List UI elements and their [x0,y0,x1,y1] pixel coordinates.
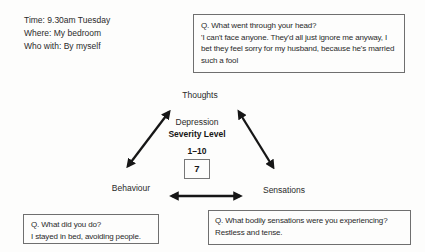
sensations-question: Q. What bodily sensations were you exper… [215,215,404,227]
behaviour-answer: I stayed in bed, avoiding people. [31,231,151,243]
depression-label: Depression [147,116,247,128]
severity-level-label: Severity Level [147,128,247,140]
thoughts-label: Thoughts [165,90,235,100]
behaviour-question: Q. What did you do? [31,219,151,231]
sensations-question-box: Q. What bodily sensations were you exper… [208,210,411,245]
severity-scale-label: 1–10 [147,145,247,157]
severity-block: Depression Severity Level 1–10 7 [147,116,247,179]
sensations-answer: Restless and tense. [215,227,404,239]
severity-rating-value: 7 [194,163,199,175]
behaviour-label: Behaviour [96,183,166,193]
cbt-diary-figure: Time: 9.30am Tuesday Where: My bedroom W… [0,0,425,252]
severity-rating-box: 7 [184,159,210,179]
behaviour-question-box: Q. What did you do? I stayed in bed, avo… [23,214,159,244]
sensations-label: Sensations [249,185,319,195]
